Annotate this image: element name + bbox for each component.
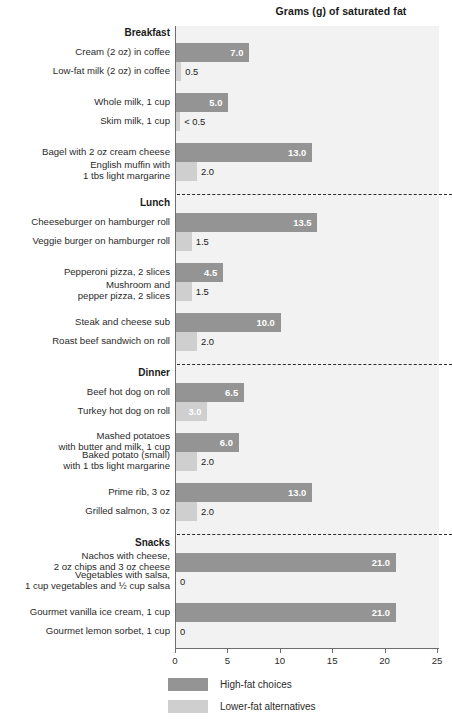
row-label-high-fat: Cream (2 oz) in coffee [0, 46, 170, 58]
row-label-lower-fat: Veggie burger on hamburger roll [0, 235, 170, 247]
row-label-lower-fat: Turkey hot dog on roll [0, 405, 170, 417]
section-header-dinner: Dinner [0, 367, 170, 378]
x-tick-label: 10 [274, 655, 285, 666]
bar-value-label: 1.5 [196, 237, 209, 246]
x-tick-label: 5 [225, 655, 230, 666]
bar-value-label: 2.0 [201, 507, 214, 516]
saturated-fat-bar-chart: Grams (g) of saturated fat Breakfast7.0C… [0, 0, 452, 726]
bar-low-fat [176, 62, 181, 81]
row-label-high-fat: Steak and cheese sub [0, 316, 170, 328]
bar-value-label: < 0.5 [184, 117, 205, 126]
bar-value-label: 0.5 [185, 67, 198, 76]
bar-low-fat [176, 332, 197, 351]
row-label-high-fat: Whole milk, 1 cup [0, 96, 170, 108]
x-axis: 0510152025 [0, 649, 452, 671]
chart-title: Grams (g) of saturated fat [230, 5, 452, 17]
x-tick-label: 15 [327, 655, 338, 666]
x-tick-label: 20 [379, 655, 390, 666]
bar-value-label: 2.0 [201, 167, 214, 176]
section-divider [177, 534, 452, 535]
bar-value-label: 0 [180, 627, 185, 636]
row-label-high-fat: Pepperoni pizza, 2 slices [0, 266, 170, 278]
bar-low-fat [176, 452, 197, 471]
legend-item: High-fat choices [168, 676, 428, 698]
section-header-snacks: Snacks [0, 537, 170, 548]
row-label-lower-fat: Gourmet lemon sorbet, 1 cup [0, 625, 170, 637]
bar-low-fat [176, 112, 180, 131]
x-tick [227, 649, 228, 653]
row-label-lower-fat: Skim milk, 1 cup [0, 115, 170, 127]
row-label-high-fat: Beef hot dog on roll [0, 386, 170, 398]
legend-item: Lower-fat alternatives [168, 698, 428, 720]
x-tick [437, 649, 438, 653]
legend-label: Lower-fat alternatives [220, 700, 316, 713]
row-label-lower-fat: Mushroom and pepper pizza, 2 slices [0, 279, 170, 302]
bar-low-fat [176, 232, 192, 251]
row-label-lower-fat: Baked potato (small) with 1 tbs light ma… [0, 449, 170, 472]
x-tick-label: 25 [432, 655, 443, 666]
x-tick [175, 649, 176, 653]
x-tick [280, 649, 281, 653]
row-label-high-fat: Cheeseburger on hamburger roll [0, 216, 170, 228]
bar-value-label: 0 [180, 577, 185, 586]
bar-low-fat [176, 162, 197, 181]
section-header-lunch: Lunch [0, 197, 170, 208]
chart-legend: High-fat choicesLower-fat alternatives [168, 676, 428, 720]
row-label-lower-fat: English muffin with 1 tbs light margarin… [0, 159, 170, 182]
bar-value-label: 2.0 [201, 337, 214, 346]
section-divider [177, 194, 452, 195]
row-label-lower-fat: Vegetables with salsa, 1 cup vegetables … [0, 569, 170, 592]
row-label-high-fat: Prime rib, 3 oz [0, 486, 170, 498]
bar-low-fat [176, 282, 192, 301]
x-tick [332, 649, 333, 653]
legend-swatch [168, 678, 208, 691]
chart-rows: Breakfast7.0Cream (2 oz) in coffee0.5Low… [0, 26, 452, 648]
bar-low-fat [176, 502, 197, 521]
bar-value-label: 2.0 [201, 457, 214, 466]
legend-swatch [168, 700, 208, 713]
row-label-high-fat: Gourmet vanilla ice cream, 1 cup [0, 606, 170, 618]
legend-label: High-fat choices [220, 678, 292, 691]
row-label-lower-fat: Grilled salmon, 3 oz [0, 505, 170, 517]
row-label-lower-fat: Roast beef sandwich on roll [0, 335, 170, 347]
row-label-high-fat: Bagel with 2 oz cream cheese [0, 146, 170, 158]
x-tick [385, 649, 386, 653]
bar-value-label: 1.5 [196, 287, 209, 296]
x-tick-label: 0 [172, 655, 177, 666]
section-divider [177, 364, 452, 365]
section-header-breakfast: Breakfast [0, 27, 170, 38]
row-label-lower-fat: Low-fat milk (2 oz) in coffee [0, 65, 170, 77]
